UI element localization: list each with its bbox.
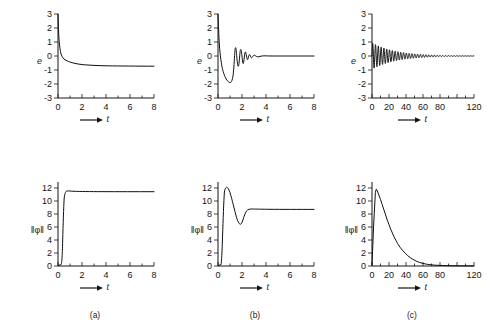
y-tick-label: -1: [204, 65, 212, 75]
x-tick-label: 40: [401, 270, 411, 280]
x-tick-label: 8: [151, 270, 156, 280]
y-tick-label: 4: [47, 235, 52, 245]
x-axis-label: t: [107, 282, 110, 292]
y-tick-label: 2: [207, 23, 212, 33]
x-tick-label: 4: [103, 102, 108, 112]
arrow-right-icon: [240, 284, 264, 292]
y-tick-label: -3: [358, 93, 366, 103]
subfigure-caption-a: (a): [75, 310, 115, 320]
y-tick-label: 3: [207, 9, 212, 19]
y-tick-label: 12: [356, 183, 366, 193]
x-axis-label: t: [425, 282, 428, 292]
x-tick-label: 6: [127, 270, 132, 280]
x-tick-label: 120: [466, 102, 481, 112]
y-tick-label: -1: [44, 65, 52, 75]
x-tick-label: 8: [311, 102, 316, 112]
x-tick-label: 4: [103, 270, 108, 280]
x-axis-label-group: t: [398, 114, 427, 124]
y-axis-label: e: [28, 57, 42, 66]
y-axis-label: ‖φ‖: [328, 226, 358, 235]
subfigure-caption-c: (c): [392, 310, 432, 320]
plot-area-c-norm: 12 10 8 6 4 2 0: [364, 180, 487, 272]
y-tick-label: 0: [207, 261, 212, 271]
y-tick-label: -2: [44, 79, 52, 89]
x-tick-label: 40: [401, 102, 411, 112]
data-series-line: [372, 189, 474, 266]
plot-area-b-norm: 12 10 8 6 4 2 0: [210, 180, 322, 272]
x-axis-label: t: [267, 114, 270, 124]
y-tick-label: 6: [361, 222, 366, 232]
data-series-line: [218, 187, 314, 265]
y-tick-label: 1: [47, 37, 52, 47]
x-tick-label: 0: [369, 270, 374, 280]
arrow-right-icon: [398, 116, 422, 124]
x-tick-label: 60: [418, 102, 428, 112]
y-tick-label: -2: [204, 79, 212, 89]
x-tick-label: 2: [239, 102, 244, 112]
x-axis-label: t: [107, 114, 110, 124]
x-axis-label-group: t: [240, 114, 269, 124]
y-tick-label: 0: [47, 261, 52, 271]
x-tick-label: 6: [287, 102, 292, 112]
y-tick-label: 8: [207, 209, 212, 219]
panel-b-norm: ‖φ‖ 12 10 8: [160, 168, 327, 318]
y-tick-label: -1: [358, 65, 366, 75]
x-axis-label-group: t: [240, 282, 269, 292]
y-tick-label: -3: [204, 93, 212, 103]
y-tick-label: 1: [207, 37, 212, 47]
y-axis-label: e: [188, 57, 202, 66]
y-tick-label: 1: [361, 37, 366, 47]
data-series-line: [372, 43, 474, 68]
x-axis-label: t: [425, 114, 428, 124]
y-tick-label: 8: [361, 209, 366, 219]
y-tick-label: 10: [42, 196, 52, 206]
x-tick-label: 2: [79, 102, 84, 112]
y-tick-label: 2: [207, 248, 212, 258]
y-tick-label: 4: [361, 235, 366, 245]
y-tick-label: 12: [202, 183, 212, 193]
x-tick-label: 0: [215, 270, 220, 280]
plot-area-c-error: 3 2 1 0 -1 -2 -3: [364, 12, 487, 104]
y-tick-label: 10: [356, 196, 366, 206]
arrow-right-icon: [398, 284, 422, 292]
panel-c-error: e 3 2 1 0: [320, 0, 487, 150]
y-tick-label: 10: [202, 196, 212, 206]
arrow-right-icon: [80, 116, 104, 124]
y-tick-label: 6: [47, 222, 52, 232]
panel-a-norm: ‖φ‖ 12 10 8: [0, 168, 167, 318]
y-tick-label: 2: [47, 23, 52, 33]
x-axis-label: t: [267, 282, 270, 292]
y-axis-label: ‖φ‖: [14, 226, 44, 235]
data-series-line: [218, 14, 314, 83]
x-tick-label: 80: [435, 270, 445, 280]
x-tick-label: 6: [287, 270, 292, 280]
y-tick-label: 0: [47, 51, 52, 61]
x-tick-label: 80: [435, 102, 445, 112]
x-tick-label: 2: [239, 270, 244, 280]
x-tick-label: 0: [215, 102, 220, 112]
y-tick-label: -3: [44, 93, 52, 103]
figure-root: e 3: [0, 0, 487, 336]
y-tick-label: -2: [358, 79, 366, 89]
x-tick-label: 120: [466, 270, 481, 280]
y-axis-label: e: [342, 57, 356, 66]
y-tick-label: 4: [207, 235, 212, 245]
x-tick-label: 20: [384, 270, 394, 280]
y-tick-label: 12: [42, 183, 52, 193]
x-tick-label: 4: [263, 102, 268, 112]
plot-area-a-norm: 12 10 8 6 4 2 0: [50, 180, 162, 272]
y-tick-label: 8: [47, 209, 52, 219]
y-tick-label: 6: [207, 222, 212, 232]
subfigure-caption-b: (b): [235, 310, 275, 320]
y-tick-label: 0: [207, 51, 212, 61]
y-tick-label: 3: [361, 9, 366, 19]
x-tick-label: 0: [369, 102, 374, 112]
y-tick-label: 3: [47, 9, 52, 19]
x-tick-label: 0: [55, 270, 60, 280]
y-axis-label: ‖φ‖: [174, 226, 204, 235]
x-tick-label: 60: [418, 270, 428, 280]
x-tick-label: 20: [384, 102, 394, 112]
x-axis-label-group: t: [398, 282, 427, 292]
data-series-line: [58, 14, 154, 66]
plot-area-a-error: 3 2 1 0 -1 -2 -3: [50, 12, 162, 104]
